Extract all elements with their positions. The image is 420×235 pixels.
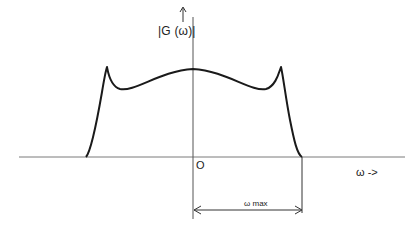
origin-label: O bbox=[196, 159, 205, 171]
x-axis-label: ω -> bbox=[356, 166, 378, 178]
diagram-canvas bbox=[0, 0, 420, 235]
omega-max-label: ω max bbox=[244, 199, 268, 208]
y-axis-label: |G (ω)| bbox=[158, 24, 196, 38]
magnitude-curve bbox=[86, 67, 302, 157]
y-axis-arrow-icon bbox=[180, 7, 186, 22]
